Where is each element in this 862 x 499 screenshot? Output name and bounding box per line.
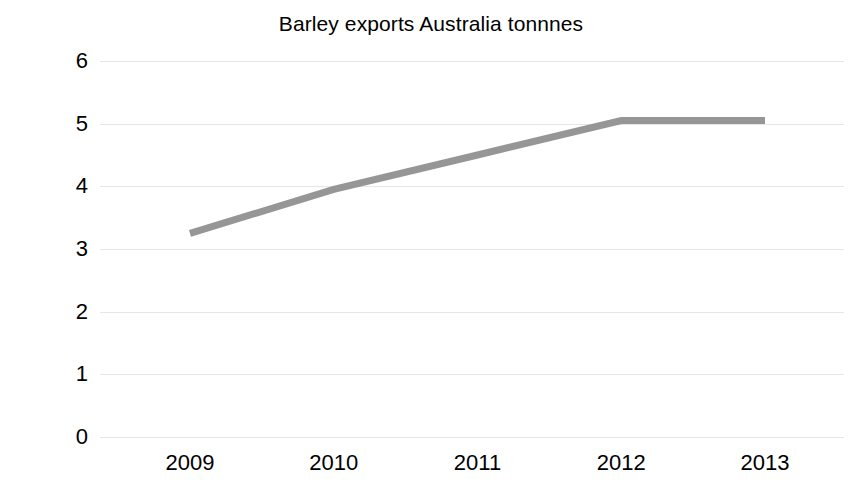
y-axis-tick-labels: 0123456 <box>48 0 88 499</box>
x-tick-label-2013: 2013 <box>710 452 820 474</box>
y-tick-label-4: 4 <box>48 175 88 197</box>
chart-title: Barley exports Australia tonnnes <box>0 12 862 36</box>
gridline-y-6 <box>100 61 844 62</box>
gridline-y-1 <box>100 374 844 375</box>
gridline-y-2 <box>100 312 844 313</box>
gridline-y-3 <box>100 249 844 250</box>
gridline-y-4 <box>100 186 844 187</box>
y-tick-label-2: 2 <box>48 301 88 323</box>
y-axis-title: Millions <box>0 220 2 290</box>
y-tick-label-0: 0 <box>48 426 88 448</box>
y-tick-label-5: 5 <box>48 113 88 135</box>
x-tick-label-2010: 2010 <box>279 452 389 474</box>
x-tick-label-2011: 2011 <box>423 452 533 474</box>
y-tick-label-1: 1 <box>48 363 88 385</box>
gridline-y-0 <box>100 437 844 438</box>
plot-area <box>100 55 844 445</box>
y-tick-label-3: 3 <box>48 238 88 260</box>
x-tick-label-2012: 2012 <box>566 452 676 474</box>
chart-container: Barley exports Australia tonnnes Million… <box>0 0 862 499</box>
gridline-y-5 <box>100 124 844 125</box>
y-tick-label-6: 6 <box>48 50 88 72</box>
x-tick-label-2009: 2009 <box>135 452 245 474</box>
